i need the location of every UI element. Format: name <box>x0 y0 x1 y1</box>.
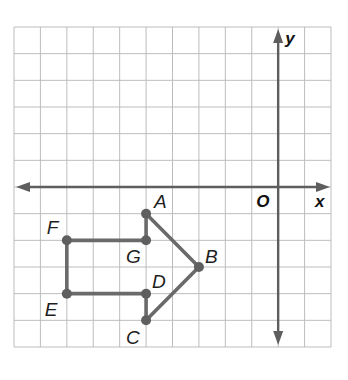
point-a-label: A <box>153 191 167 212</box>
y-axis-up-arrow-icon <box>273 29 283 43</box>
point-g-dot <box>141 235 151 245</box>
point-b-label: B <box>205 246 218 267</box>
point-labels: ABCDEFG <box>45 191 218 349</box>
point-a-dot <box>141 209 151 219</box>
point-e-label: E <box>45 299 58 320</box>
point-g-label: G <box>126 246 141 267</box>
point-d-label: D <box>152 271 166 292</box>
y-axis-down-arrow-icon <box>273 331 283 345</box>
point-c-dot <box>141 315 151 325</box>
x-axis-label: x <box>314 192 326 211</box>
point-f-dot <box>62 235 72 245</box>
point-b-dot <box>194 262 204 272</box>
x-axis-right-arrow-icon <box>316 182 330 192</box>
point-f-label: F <box>47 217 60 238</box>
point-e-dot <box>62 289 72 299</box>
y-axis-label: y <box>284 29 296 48</box>
coordinate-grid-diagram: yxO ABCDEFG <box>0 0 348 380</box>
origin-label: O <box>256 192 269 211</box>
point-c-label: C <box>126 327 140 348</box>
point-d-dot <box>141 289 151 299</box>
x-axis-left-arrow-icon <box>16 182 30 192</box>
